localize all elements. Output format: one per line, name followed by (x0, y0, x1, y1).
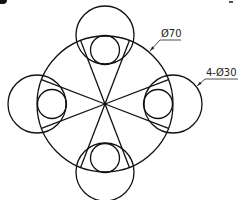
tangent-line (81, 41, 105, 105)
inner-circle-left (38, 90, 67, 119)
tangent-line (105, 41, 129, 105)
inner-circle-bottom (91, 144, 120, 173)
tangent-line (42, 80, 106, 104)
inner-circle-top (91, 36, 120, 65)
tangent-line (42, 104, 106, 128)
annotation-group (150, 40, 238, 86)
tangent-line (105, 104, 129, 168)
tangent-line (105, 80, 169, 104)
tangent-line (81, 104, 105, 168)
main-diameter-label: Ø70 (161, 28, 182, 39)
inner-circle-right (144, 90, 173, 119)
technical-drawing: Ø70 4-Ø30 (0, 0, 238, 200)
tangent-line (105, 104, 169, 128)
hole-diameter-label: 4-Ø30 (206, 67, 237, 78)
